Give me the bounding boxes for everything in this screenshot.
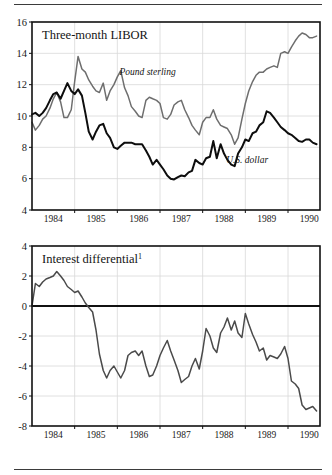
x-axis-tick-label: 1984 xyxy=(44,430,63,440)
x-axis-tick-label: 1986 xyxy=(129,214,148,224)
series-annotation-label: Pound sterling xyxy=(118,67,175,77)
x-axis-tick-label: 1989 xyxy=(257,214,276,224)
title-superscript: 1 xyxy=(138,252,142,261)
x-axis-tick-label: 1988 xyxy=(215,214,234,224)
x-axis-tick-label: 1985 xyxy=(87,430,106,440)
y-axis-tick-label: 14 xyxy=(17,48,28,59)
y-axis-tick-label: 16 xyxy=(17,17,28,28)
y-axis-tick-label: 8 xyxy=(22,142,27,153)
chart-title: Three-month LIBOR xyxy=(42,28,149,42)
x-axis-tick-label: 1986 xyxy=(129,430,148,440)
y-axis-tick-label: -2 xyxy=(18,331,27,342)
y-axis-tick-label: 10 xyxy=(17,111,28,122)
y-axis-tick-label: -8 xyxy=(18,421,27,432)
x-axis-tick-label: 1989 xyxy=(257,430,276,440)
y-axis-tick-label: -4 xyxy=(18,361,27,372)
x-axis-tick-label: 1990 xyxy=(300,214,319,224)
y-axis-tick-label: 0 xyxy=(22,301,27,312)
y-axis-tick-label: 6 xyxy=(22,173,27,184)
x-axis-tick-label: 1988 xyxy=(215,430,234,440)
differential-chart-svg: 420-2-4-6-81984198519861987198819891990I… xyxy=(0,240,332,460)
y-axis-tick-label: -6 xyxy=(18,391,27,402)
chart-panel-libor: 468101214161984198519861987198819891990T… xyxy=(0,14,332,236)
figure-container: 468101214161984198519861987198819891990T… xyxy=(0,0,332,475)
x-axis-tick-label: 1984 xyxy=(44,214,63,224)
y-axis-tick-label: 4 xyxy=(22,205,28,216)
x-axis-tick-label: 1987 xyxy=(172,214,191,224)
y-axis-tick-label: 2 xyxy=(22,271,27,282)
x-axis-tick-label: 1990 xyxy=(300,430,319,440)
chart-title: Interest differential1 xyxy=(42,252,142,266)
y-axis-tick-label: 4 xyxy=(22,241,28,252)
x-axis-tick-label: 1985 xyxy=(87,214,106,224)
top-divider-rule xyxy=(14,4,322,5)
y-axis-tick-label: 12 xyxy=(17,79,28,90)
series-annotation-label: U.S. dollar xyxy=(226,155,268,165)
x-axis-tick-label: 1987 xyxy=(172,430,191,440)
libor-chart-svg: 468101214161984198519861987198819891990T… xyxy=(0,14,332,236)
chart-panel-differential: 420-2-4-6-81984198519861987198819891990I… xyxy=(0,240,332,460)
bottom-divider-rule xyxy=(14,469,322,470)
